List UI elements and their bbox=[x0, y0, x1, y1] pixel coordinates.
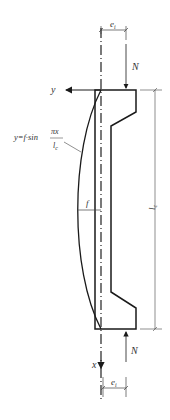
column-outline bbox=[95, 90, 136, 329]
diagram-canvas: ei N y y=f·sin πx lc f lc N x ei bbox=[0, 0, 170, 420]
length-label: lc bbox=[147, 204, 158, 210]
force-label-top: N bbox=[131, 61, 140, 72]
equation-denominator: lc bbox=[53, 141, 58, 151]
column-diagram: ei N y y=f·sin πx lc f lc N x ei bbox=[0, 0, 170, 420]
equation-numerator: πx bbox=[51, 127, 59, 136]
equation-label: y=f·sin bbox=[13, 132, 38, 142]
force-label-bottom: N bbox=[130, 345, 139, 356]
eccentricity-label-top: ei bbox=[110, 19, 116, 30]
deflection-curve bbox=[78, 90, 101, 329]
equation-leader bbox=[64, 142, 81, 152]
deflection-label: f bbox=[86, 198, 90, 208]
eccentricity-label-bottom: ei bbox=[111, 377, 117, 388]
y-axis-label: y bbox=[50, 84, 56, 95]
x-axis-label: x bbox=[91, 359, 97, 370]
